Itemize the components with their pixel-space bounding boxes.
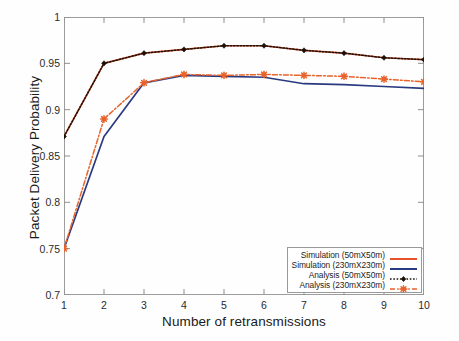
- y-tick-0.95: 0.95: [16, 57, 60, 69]
- legend-swatch: [389, 270, 418, 280]
- legend-swatch: [389, 250, 418, 260]
- legend-item: Simulation (230mX230m): [292, 260, 418, 270]
- x-tick-4: 4: [169, 299, 199, 311]
- legend-item: Analysis (50mX50m): [292, 270, 418, 280]
- x-tick-5: 5: [209, 299, 239, 311]
- x-tick-7: 7: [289, 299, 319, 311]
- legend-label: Simulation (50mX50m): [301, 250, 389, 260]
- series-line-0: [64, 46, 424, 137]
- x-tick-2: 2: [89, 299, 119, 311]
- x-tick-9: 9: [369, 299, 399, 311]
- x-tick-10: 10: [409, 299, 439, 311]
- series-line-2: [64, 43, 424, 139]
- y-axis-tick-labels: 0.70.750.80.850.90.951: [8, 0, 60, 341]
- legend-label: Analysis (230mX230m): [299, 280, 389, 290]
- legend-swatch: [389, 260, 418, 270]
- plot-area: Simulation (50mX50m)Simulation (230mX230…: [64, 17, 424, 295]
- series-line-3: [64, 71, 424, 252]
- y-tick-0.8: 0.8: [16, 196, 60, 208]
- legend-swatch: [389, 280, 418, 290]
- legend-label: Simulation (230mX230m): [292, 260, 389, 270]
- y-tick-0.85: 0.85: [16, 150, 60, 162]
- y-tick-0.9: 0.9: [16, 104, 60, 116]
- series-line-1: [64, 75, 424, 248]
- x-tick-6: 6: [249, 299, 279, 311]
- y-tick-1: 1: [16, 11, 60, 23]
- x-tick-8: 8: [329, 299, 359, 311]
- chart-legend: Simulation (50mX50m)Simulation (230mX230…: [287, 247, 422, 293]
- x-axis-label: Number of retransmissions: [64, 314, 424, 329]
- legend-item: Simulation (50mX50m): [292, 250, 418, 260]
- y-tick-0.75: 0.75: [16, 243, 60, 255]
- legend-label: Analysis (50mX50m): [309, 270, 389, 280]
- legend-item: Analysis (230mX230m): [292, 280, 418, 290]
- x-tick-3: 3: [129, 299, 159, 311]
- chart-figure: Packet Delivery Probability 0.70.750.80.…: [0, 0, 459, 341]
- x-tick-1: 1: [49, 299, 79, 311]
